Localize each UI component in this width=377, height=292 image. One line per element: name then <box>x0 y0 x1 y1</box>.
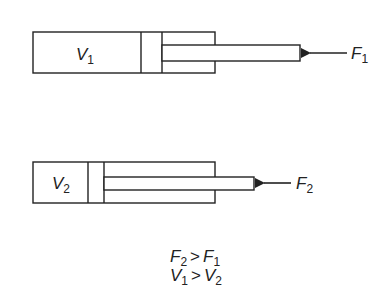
diagram-canvas: V1 F1 V2 F2 F2>F1 V1>V2 <box>0 0 377 292</box>
cylinder-2: V2 F2 <box>33 162 313 203</box>
volume-label-1: V1 <box>76 45 94 67</box>
relations: F2>F1 V1>V2 <box>170 247 222 288</box>
volume-label-2: V2 <box>52 174 70 196</box>
cylinder-1-rod <box>162 45 300 61</box>
cylinder-2-rod <box>104 177 254 190</box>
force-label-1: F1 <box>351 44 368 66</box>
force-label-2: F2 <box>296 174 313 196</box>
relation-volume: V1>V2 <box>170 266 222 288</box>
cylinder-1: V1 F1 <box>33 32 368 73</box>
